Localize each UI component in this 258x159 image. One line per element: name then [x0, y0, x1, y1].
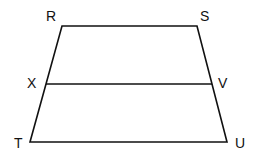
- label-s: S: [200, 8, 209, 24]
- trapezoid-diagram: R S X V T U: [0, 0, 258, 159]
- label-x: X: [27, 75, 37, 91]
- label-u: U: [235, 135, 245, 151]
- label-v: V: [218, 75, 228, 91]
- label-t: T: [14, 135, 23, 151]
- label-r: R: [46, 8, 56, 24]
